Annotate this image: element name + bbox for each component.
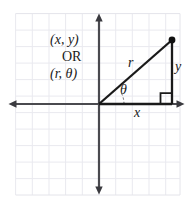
label-angle-theta: θ — [120, 83, 127, 97]
label-polar-point: (r, θ) — [50, 67, 77, 81]
label-rectangular-point: (x, y) — [50, 33, 79, 47]
label-radius-r: r — [128, 56, 133, 70]
label-or: OR — [62, 50, 81, 64]
label-horizontal-leg-x: x — [134, 106, 140, 120]
plot-canvas — [0, 0, 193, 208]
coordinate-diagram: (x, y) OR (r, θ) r θ x y — [0, 0, 193, 208]
label-vertical-leg-y: y — [175, 60, 181, 74]
terminal-point-dot — [169, 37, 176, 44]
